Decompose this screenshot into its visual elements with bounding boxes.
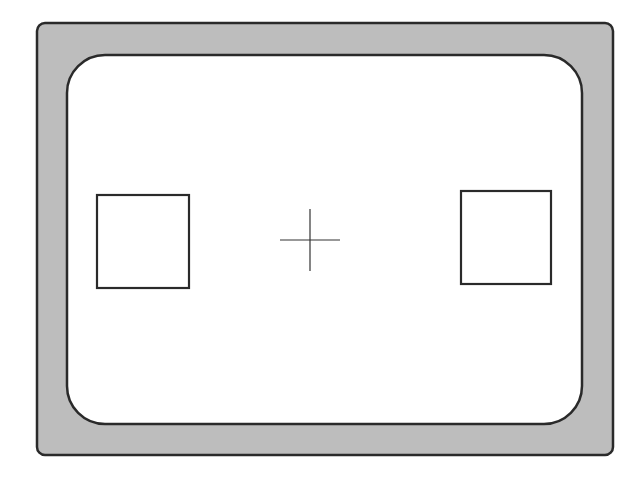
viewfinder-diagram (0, 0, 639, 478)
